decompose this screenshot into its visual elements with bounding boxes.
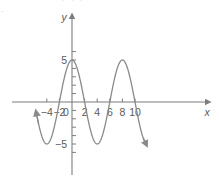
graph-figure: · · · · −4−20246810 5−5 x y [0, 0, 219, 185]
x-tick-label: 8 [119, 106, 125, 118]
x-axis-label: x [203, 106, 210, 118]
y-tick-label: 5 [61, 54, 67, 66]
curve-left-arrowhead [37, 115, 39, 124]
x-axis-tick-labels: −4−20246810 [41, 106, 141, 118]
curve-right-arrowhead [143, 138, 145, 142]
clipped-header-text: · · · [62, 0, 212, 3]
axes [12, 18, 206, 175]
y-axis-label: y [60, 11, 67, 23]
cosine-graph-plot: −4−20246810 5−5 x y [0, 0, 219, 185]
y-tick-label: −5 [55, 138, 67, 150]
x-tick-label: 10 [129, 106, 141, 118]
x-tick-label: 0 [63, 106, 69, 118]
x-tick-label: −4 [41, 106, 53, 118]
x-tick-label: 4 [94, 106, 100, 118]
left-margin-mark: · [1, 10, 5, 14]
